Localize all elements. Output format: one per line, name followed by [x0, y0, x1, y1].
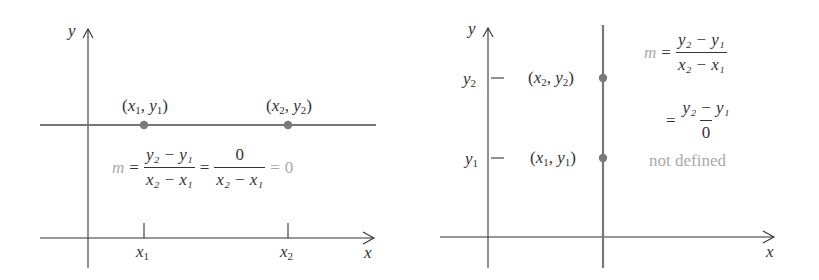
slope-result: 0	[285, 158, 294, 178]
right-x-axis-label: x	[766, 243, 774, 260]
left-y-axis-label: y	[68, 22, 76, 39]
undefined-fraction: y₂ − y₁ 0	[681, 98, 732, 143]
left-slope-formula: m = y₂ − y₁ x₂ − x₁ = 0 x₂ − x₁ = 0	[112, 145, 293, 190]
equals-sign: =	[129, 158, 139, 178]
left-tick-x2-label: x2	[280, 243, 293, 262]
fraction-numerator: y₂ − y₁	[676, 30, 727, 52]
slope-symbol: m	[112, 158, 124, 178]
right-point-2	[599, 74, 607, 82]
fraction-denominator: 0	[700, 120, 713, 143]
fraction-denominator: x₂ − x₁	[214, 167, 265, 190]
slope-symbol: m	[644, 43, 656, 63]
right-slope-formula-line2: = y₂ − y₁ 0	[666, 98, 731, 143]
right-tick-y1-label: y1	[465, 150, 478, 169]
fraction-denominator: x₂ − x₁	[676, 52, 727, 75]
zero-fraction: 0 x₂ − x₁	[214, 145, 265, 190]
equals-sign: =	[666, 111, 676, 131]
right-point-1	[599, 154, 607, 162]
right-tick-y2-label: y2	[463, 70, 476, 89]
equals-sign: =	[661, 43, 671, 63]
left-point-2-label: (x2, y2)	[266, 97, 312, 116]
right-point-1-label: (x1, y1)	[530, 149, 576, 168]
left-tick-x1-label: x1	[136, 243, 149, 262]
fraction-denominator: x₂ − x₁	[144, 167, 195, 190]
left-x-axis-label: x	[364, 244, 372, 261]
right-y-axis-label: y	[468, 20, 476, 37]
equals-sign: =	[270, 158, 280, 178]
right-point-2-label: (x2, y2)	[528, 69, 574, 88]
left-point-1-label: (x1, y1)	[122, 97, 168, 116]
slope-fraction: y₂ − y₁ x₂ − x₁	[676, 30, 727, 75]
fraction-numerator: 0	[234, 145, 247, 167]
right-slope-formula-line1: m = y₂ − y₁ x₂ − x₁	[644, 30, 727, 75]
slope-fraction: y₂ − y₁ x₂ − x₁	[144, 145, 195, 190]
equals-sign: =	[200, 158, 210, 178]
left-point-1	[140, 121, 148, 129]
not-defined-text: not defined	[649, 152, 726, 169]
fraction-numerator: y₂ − y₁	[144, 145, 195, 167]
fraction-numerator: y₂ − y₁	[681, 98, 732, 120]
left-point-2	[284, 121, 292, 129]
